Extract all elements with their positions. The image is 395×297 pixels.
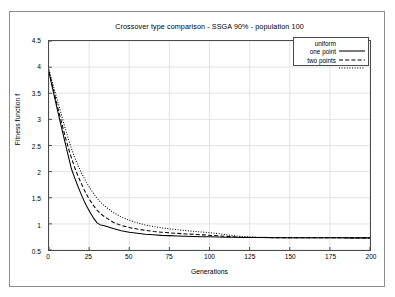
x-tick-label: 50 bbox=[125, 253, 132, 260]
plot-area bbox=[48, 40, 371, 251]
x-tick-label: 200 bbox=[365, 253, 376, 260]
x-axis-title: Generations bbox=[48, 268, 371, 275]
chart-legend: uniformone pointtwo points bbox=[293, 37, 369, 66]
series-lines bbox=[49, 41, 370, 250]
legend-item-one-point: one point bbox=[296, 48, 365, 57]
x-tick-label: 175 bbox=[325, 253, 336, 260]
series-line-uniform bbox=[49, 72, 370, 238]
legend-label: one point bbox=[310, 48, 336, 55]
x-tick-label: 75 bbox=[165, 253, 172, 260]
x-tick-label: 125 bbox=[244, 253, 255, 260]
x-axis-tick-labels: 0255075100125150175200 bbox=[48, 253, 371, 267]
y-tick-label: 4.5 bbox=[32, 37, 41, 44]
x-tick-label: 150 bbox=[285, 253, 296, 260]
y-tick-label: 2 bbox=[37, 168, 41, 175]
legend-line-sample bbox=[339, 57, 365, 63]
y-tick-label: 3.5 bbox=[32, 89, 41, 96]
series-line-one-point bbox=[49, 71, 370, 238]
figure-container: Crossover type comparison - SSGA 90% - p… bbox=[0, 0, 395, 297]
y-tick-label: 0.5 bbox=[32, 248, 41, 255]
x-tick-label: 100 bbox=[204, 253, 215, 260]
y-tick-label: 1 bbox=[37, 221, 41, 228]
y-axis-tick-labels: 0.511.522.533.544.5 bbox=[18, 40, 45, 251]
y-tick-label: 1.5 bbox=[32, 195, 41, 202]
legend-line-sample bbox=[339, 49, 365, 55]
chart-title: Crossover type comparison - SSGA 90% - p… bbox=[48, 22, 371, 31]
y-tick-label: 2.5 bbox=[32, 142, 41, 149]
legend-item-uniform: uniform bbox=[296, 39, 365, 48]
legend-line-sample bbox=[339, 40, 365, 46]
legend-item-two-points: two points bbox=[296, 56, 365, 65]
legend-label: uniform bbox=[315, 40, 336, 47]
y-tick-label: 3 bbox=[37, 116, 41, 123]
series-line-two-points bbox=[49, 70, 370, 238]
x-tick-label: 0 bbox=[46, 253, 50, 260]
y-tick-label: 4 bbox=[37, 63, 41, 70]
x-tick-label: 25 bbox=[85, 253, 92, 260]
legend-label: two points bbox=[307, 57, 336, 64]
